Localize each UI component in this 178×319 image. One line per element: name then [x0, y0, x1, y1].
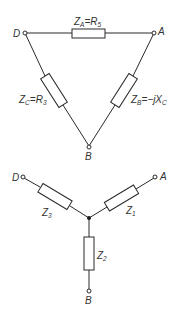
terminal-d [21, 175, 25, 179]
terminal-b [87, 145, 91, 149]
wire-d-zc [25, 33, 45, 76]
node-label-a: A [157, 26, 165, 37]
label-za: ZA=R5 [73, 16, 102, 28]
resistor-z2 [84, 237, 94, 270]
terminal-b [87, 289, 91, 293]
resistor-z1 [104, 185, 138, 211]
node-label-a: A [159, 171, 167, 182]
wire-z3-center [70, 206, 89, 218]
wire-a-z1 [136, 178, 154, 189]
wire-a-zb [133, 33, 154, 76]
node-label-b: B [85, 151, 92, 162]
star-center-node [87, 216, 91, 220]
terminal-d [23, 31, 27, 35]
node-label-d: D [13, 28, 20, 39]
node-label-b: B [85, 295, 92, 306]
node-label-d: D [12, 172, 19, 183]
delta-network: D A B ZA=R5 ZC=R3 ZB=−jXC [13, 16, 167, 162]
terminal-a [153, 175, 157, 179]
resistor-za [72, 29, 105, 38]
label-zb: ZB=−jXC [130, 94, 167, 106]
wire-z1-center [89, 207, 107, 218]
label-z3: Z3 [41, 207, 52, 219]
wire-zc-b [63, 105, 89, 146]
wire-d-z3 [24, 178, 40, 187]
label-z1: Z1 [125, 205, 136, 217]
wire-zb-b [89, 105, 115, 146]
label-zc: ZC=R3 [18, 94, 47, 106]
circuit-diagram: D A B ZA=R5 ZC=R3 ZB=−jXC [0, 0, 178, 319]
label-z2: Z2 [96, 250, 107, 262]
star-network: D A B Z3 Z1 Z2 [12, 171, 167, 306]
terminal-a [152, 31, 156, 35]
resistor-z3 [38, 183, 72, 209]
